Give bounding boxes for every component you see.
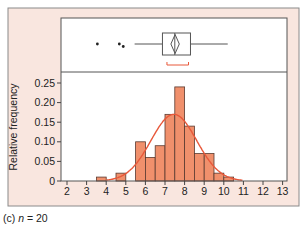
caption-label: (c) [3,212,15,224]
caption-equals: = [27,212,33,224]
y-tick-label: 0.15 [35,116,56,128]
x-tick-label: 12 [257,185,269,197]
y-tick-label: 0.05 [35,155,56,167]
y-axis-label: Relative frequency [7,83,19,171]
x-tick-label: 2 [64,185,70,197]
histogram-bar [155,146,165,181]
x-tick-label: 6 [142,185,148,197]
histogram-chart: 00.050.100.150.200.25 2345678910111213 R… [0,0,308,227]
histogram-bar [96,177,106,181]
histogram-bar [136,142,146,181]
x-tick-label: 8 [182,185,188,197]
histogram-bar [165,114,175,181]
y-tick-label: 0.20 [35,96,56,108]
x-tick-label: 5 [123,185,129,197]
x-tick-label: 11 [238,185,249,197]
x-tick-label: 7 [162,185,168,197]
y-tick-label: 0.25 [35,77,56,89]
caption-value: 20 [36,212,48,224]
x-tick-label: 4 [103,185,109,197]
x-tick-label: 10 [218,185,230,197]
x-tick-label: 3 [84,185,90,197]
histogram-bar [175,87,185,181]
outlier-point [118,43,121,46]
histogram-bar [145,157,155,181]
x-tick-label: 13 [277,185,289,197]
figure-caption: (c) n = 20 [3,212,48,224]
histogram-bar [194,154,204,181]
outlier-point [122,45,125,48]
x-tick-label: 9 [201,185,207,197]
caption-variable: n [18,212,24,224]
histogram-bar [204,154,214,181]
outlier-point [96,43,99,46]
y-tick-label: 0 [49,175,55,187]
y-tick-label: 0.10 [35,135,56,147]
